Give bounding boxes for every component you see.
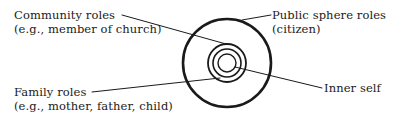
inner-self-label: Inner self: [324, 81, 381, 95]
community-roles-label: Community roles (e.g., member of church): [14, 8, 162, 36]
family-roles-title: Family roles: [14, 85, 173, 99]
concentric-roles-diagram: Community roles (e.g., member of church)…: [0, 0, 395, 121]
family-roles-example: (e.g., mother, father, child): [14, 99, 173, 113]
community-roles-title: Community roles: [14, 8, 162, 22]
inner-self-title: Inner self: [324, 81, 381, 95]
public-sphere-circle: [183, 19, 271, 107]
inner-self-circle: [218, 54, 236, 72]
community-roles-example: (e.g., member of church): [14, 22, 162, 36]
family-roles-label: Family roles (e.g., mother, father, chil…: [14, 85, 173, 113]
inner-self-leader-line: [235, 67, 322, 88]
public-sphere-roles-title: Public sphere roles: [272, 8, 386, 22]
public-sphere-roles-example: (citizen): [272, 22, 386, 36]
public-sphere-roles-label: Public sphere roles (citizen): [272, 8, 386, 36]
family-circle: [213, 49, 241, 77]
public-sphere-leader-line: [242, 15, 271, 20]
